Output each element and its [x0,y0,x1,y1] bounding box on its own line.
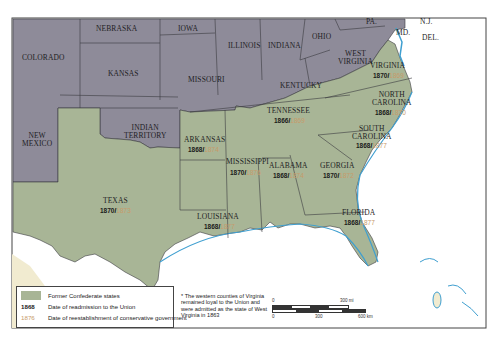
state-label-missouri: MISSOURI [188,76,225,84]
state-label-pa: PA. [366,18,377,26]
state-label-kansas: KANSAS [108,70,139,78]
state-label-mississippi: MISSISSIPPI [226,158,269,166]
state-label-texas: TEXAS [103,197,128,205]
state-label-kentucky: KENTUCKY [280,82,322,90]
scale-km-bar [272,309,366,313]
dates-florida: 1868/1877 [344,219,375,226]
scale-mi-end: 300 mi [340,298,354,303]
state-label-nj: N.J. [420,18,433,26]
legend-row-conservative: 1876 Date of reestablishment of conserva… [21,314,187,321]
legend-label: Former Confederate states [48,293,120,299]
dates-north-carolina: 1868/1870 [375,109,406,116]
dates-arkansas: 1868/1874 [188,146,219,153]
state-label-del: DEL. [422,34,439,42]
state-label-alabama: ALABAMA [269,162,308,170]
dates-texas: 1870/1873 [100,207,131,214]
state-label-iowa: IOWA [178,25,198,33]
state-label-indiana: INDIANA [268,42,301,50]
state-label-louisiana: LOUISIANA [197,213,239,221]
legend-row-confederate: Former Confederate states [21,291,120,300]
state-label-south-carolina: SOUTHCAROLINA [352,125,392,141]
legend-key: 1868 [21,303,41,310]
legend-label: Date of reestablishment of conservative … [48,315,187,321]
state-label-west-virginia: WESTVIRGINIA [338,50,373,66]
state-label-new-mexico: NEWMEXICO [22,132,52,148]
dates-louisiana: 1868/1877 [204,223,235,230]
state-label-florida: FLORIDA [342,209,375,217]
dates-virginia: 1870/1869 [373,72,404,79]
dates-south-carolina: 1868/1877 [356,142,387,149]
state-label-md: MD. [396,29,410,37]
legend-key: 1876 [21,314,41,321]
state-label-indian-territory: INDIANTERRITORY [124,124,166,140]
state-label-arkansas: ARKANSAS [184,136,225,144]
dates-mississippi: 1870/1876 [230,169,261,176]
scale-km-start: 0 [272,314,275,319]
dates-alabama: 1868/1874 [273,172,304,179]
scale-bar: 0 300 mi 0 300 600 km [272,298,382,324]
confederate-swatch [21,291,41,300]
state-label-virginia: VIRGINIA [370,62,405,70]
dates-georgia: 1870/1872 [323,172,354,179]
legend-label: Date of readmission to the Union [48,304,135,310]
state-label-ohio: OHIO [312,33,331,41]
legend-row-readmission: 1868 Date of readmission to the Union [21,303,135,310]
state-label-illinois: ILLINOIS [228,42,260,50]
map-legend: Former Confederate states 1868 Date of r… [16,286,174,328]
state-label-colorado: COLORADO [22,54,64,62]
state-label-north-carolina: NORTHCAROLINA [372,91,412,107]
state-label-georgia: GEORGIA [320,162,354,170]
scale-km-end: 600 km [358,314,373,319]
dates-tennessee: 1866/1869 [274,117,305,124]
scale-km-mid: 300 [315,314,323,319]
west-virginia-footnote: * The western counties of Virginia remai… [181,293,271,319]
state-label-nebraska: NEBRASKA [96,25,137,33]
state-label-tennessee: TENNESSEE [267,107,310,115]
scale-mi-start: 0 [272,298,275,303]
